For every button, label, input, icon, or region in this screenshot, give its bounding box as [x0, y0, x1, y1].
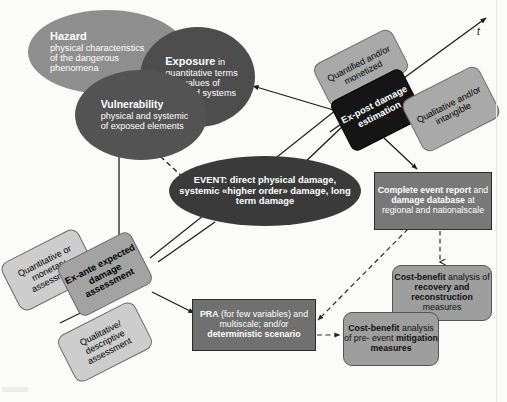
node-pra-line1-bold: PRA: [200, 309, 219, 319]
node-cb-mitigation-line1: Cost-benefit: [348, 323, 399, 333]
node-vulnerability-line1: physical and systemic: [101, 111, 189, 121]
node-pra[interactable]: PRA (for few variables) and multiscale; …: [192, 299, 316, 351]
diagram-canvas: Hazard physical characteristics of the d…: [0, 0, 507, 402]
edge-expost-to-report: [384, 138, 417, 169]
node-cb-mitigation-line3-plain: event: [372, 333, 396, 343]
node-cb-recovery-line2-bold: recovery: [415, 282, 452, 292]
node-report-line4: nationalscale: [433, 205, 484, 215]
node-exposure-title-tail: in: [215, 57, 225, 67]
node-pra-line4: deterministic scenario: [207, 329, 300, 339]
node-cb-recovery-line1: Cost-benefit: [394, 272, 445, 282]
node-qualitative-intangible[interactable]: Qualitative and/or intangible: [400, 64, 503, 155]
node-event-line1: EVENT: direct physical: [194, 174, 296, 185]
node-vulnerability-line2: of exposed elements: [101, 121, 189, 131]
node-cb-mitigation-line3-bold: mitigation: [396, 333, 438, 343]
node-report-line2-plain: and: [474, 185, 489, 195]
node-event-line4: damage: [259, 195, 294, 206]
node-complete-event-report[interactable]: Complete event report and damage databas…: [374, 172, 492, 230]
node-exposure-title: Exposure: [165, 55, 215, 67]
node-pra-line1-plain: (for few: [219, 309, 251, 319]
node-cb-recovery-line4: measures: [423, 302, 462, 312]
node-pra-line2: variables) and: [253, 309, 308, 319]
node-vulnerability-title: Vulnerability: [101, 99, 189, 111]
node-cb-mitigation-line4: measures: [370, 343, 411, 353]
edge-event-to-exante: [158, 222, 215, 262]
node-pra-line3: multiscale; and/or: [220, 319, 289, 329]
node-report-line1: Complete event report: [378, 185, 471, 195]
node-vulnerability[interactable]: Vulnerability physical and systemic of e…: [75, 70, 207, 160]
node-cost-benefit-mitigation[interactable]: Cost-benefit analysis of pre- event miti…: [343, 312, 439, 366]
edge-exante-to-pra: [152, 292, 194, 313]
scan-artifact-smudge: [2, 387, 28, 392]
node-qualitative-descriptive-assessment[interactable]: Qualitative/ descriptive assessment: [55, 299, 155, 384]
scan-artifact-line: [496, 0, 497, 402]
time-axis-label: t: [477, 26, 480, 37]
node-report-line2-bold: damage database: [391, 195, 465, 205]
node-cb-recovery-line2-plain: analysis of: [448, 272, 490, 282]
node-event[interactable]: EVENT: direct physical damage, systemic …: [169, 156, 361, 226]
